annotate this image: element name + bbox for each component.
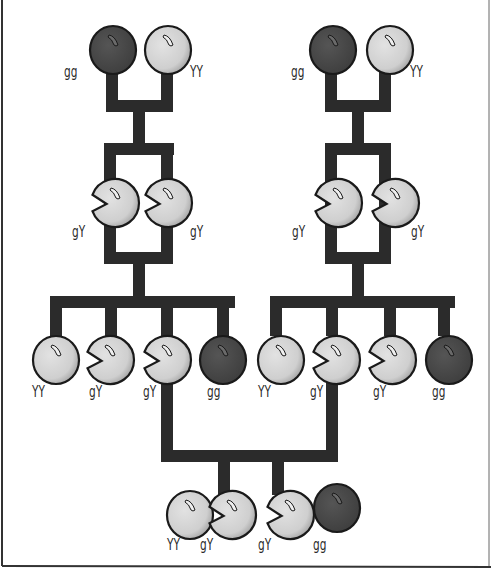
genotype-label: gg: [432, 383, 445, 401]
pea-green-round-icon: [310, 26, 356, 74]
pea-yellow-notched-icon: [267, 491, 314, 539]
pea-green-round-icon: [426, 336, 472, 384]
pea-yellow-round-icon: [367, 26, 413, 74]
genotype-label: YY: [190, 63, 203, 81]
connector-lines: [50, 72, 455, 495]
genotype-label: gg: [207, 383, 220, 401]
pea-yellow-round-icon: [145, 26, 191, 74]
pea-green-round-icon: [200, 336, 246, 384]
genotype-label: gY: [190, 223, 203, 241]
pedigree-diagram: [0, 0, 491, 587]
genotype-label: YY: [410, 63, 423, 81]
genotype-label: gY: [143, 383, 156, 401]
pea-yellow-notched-icon: [92, 179, 139, 227]
genotype-label: gY: [258, 536, 271, 554]
pea-yellow-notched-icon: [209, 491, 256, 539]
genotype-label: gY: [373, 383, 386, 401]
pea-green-round-icon: [90, 26, 136, 74]
genotype-label: YY: [167, 536, 180, 554]
pea-yellow-notched-icon: [145, 179, 192, 227]
pea-green-round-icon: [314, 484, 360, 532]
pea-yellow-round-icon: [33, 336, 79, 384]
genotype-label: gg: [313, 536, 326, 554]
genotype-label: gY: [292, 223, 305, 241]
pea-yellow-round-icon: [167, 491, 213, 539]
genotype-label: YY: [258, 383, 271, 401]
pea-yellow-notched-icon: [369, 336, 416, 384]
pea-yellow-notched-icon: [87, 336, 134, 384]
genotype-label: gY: [72, 223, 85, 241]
peas: [33, 26, 472, 539]
genotype-label: gY: [310, 383, 323, 401]
genotype-label: gg: [64, 63, 77, 81]
pea-yellow-notched-icon: [313, 336, 360, 384]
genotype-label: gY: [200, 536, 213, 554]
border-bottom: [2, 566, 491, 567]
genotype-label: gg: [291, 63, 304, 81]
pea-yellow-notched-icon: [144, 336, 191, 384]
pea-yellow-notched-icon: [315, 179, 362, 227]
pea-yellow-round-icon: [258, 336, 304, 384]
genotype-label: gY: [89, 383, 102, 401]
genotype-label: YY: [32, 383, 45, 401]
genotype-label: gY: [411, 223, 424, 241]
